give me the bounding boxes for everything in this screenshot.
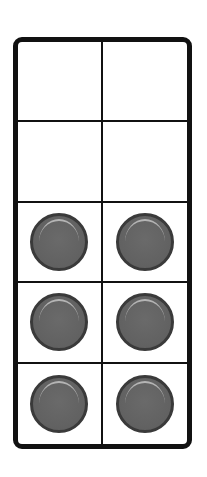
counter-dot-icon xyxy=(30,375,88,433)
ten-frame-cell xyxy=(18,122,103,202)
ten-frame-cell xyxy=(103,203,188,283)
ten-frame-cell xyxy=(18,283,103,363)
ten-frame-cell xyxy=(103,42,188,122)
ten-frame-cell xyxy=(18,364,103,444)
ten-frame-cell xyxy=(103,283,188,363)
ten-frame-cell xyxy=(103,364,188,444)
ten-frame-cell xyxy=(18,42,103,122)
ten-frame xyxy=(13,37,192,449)
ten-frame-grid xyxy=(18,42,187,444)
counter-dot-icon xyxy=(116,375,174,433)
ten-frame-cell xyxy=(103,122,188,202)
counter-dot-icon xyxy=(30,213,88,271)
ten-frame-cell xyxy=(18,203,103,283)
counter-dot-icon xyxy=(30,293,88,351)
counter-dot-icon xyxy=(116,213,174,271)
counter-dot-icon xyxy=(116,293,174,351)
